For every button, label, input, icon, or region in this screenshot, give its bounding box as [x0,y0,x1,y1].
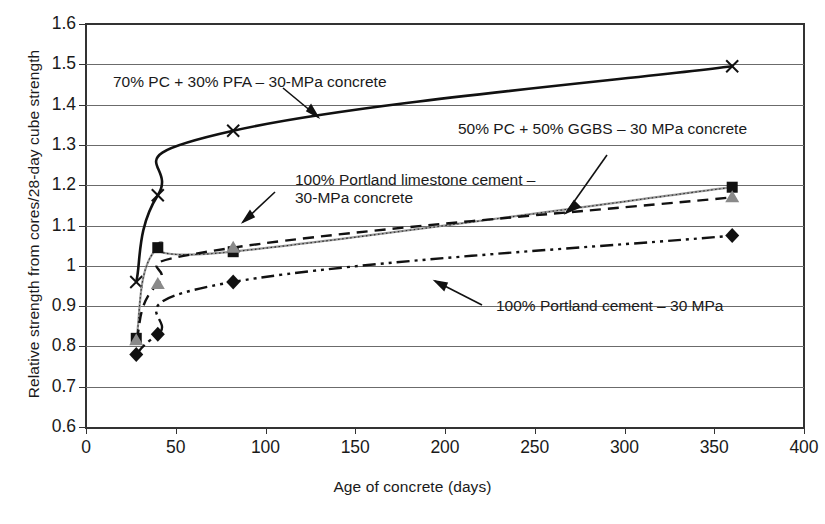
annotation-limestone: 100% Portland limestone cement – 30-MPa … [295,171,535,208]
y-tick-label: 1.1 [18,215,76,236]
x-tick-label: 150 [325,437,385,458]
gridline [86,64,804,65]
chart-figure: Relative strength from cores/28-day cube… [0,0,825,524]
axis-line-top [85,23,805,25]
x-tick-label: 0 [56,437,116,458]
y-tick-label: 0.9 [18,295,76,316]
x-tick-label: 50 [146,437,206,458]
y-tick [79,306,86,307]
annotation-limestone-line2: 30-MPa concrete [295,189,535,207]
gridline [86,145,804,146]
x-tick-label: 350 [684,437,744,458]
y-tick-label: 1.2 [18,174,76,195]
x-tick-label: 200 [415,437,475,458]
x-tick-label: 300 [595,437,655,458]
y-tick-label: 0.8 [18,335,76,356]
y-tick-label: 1.4 [18,94,76,115]
y-tick-label: 0.7 [18,376,76,397]
y-tick-label: 1.3 [18,134,76,155]
gridline [86,226,804,227]
x-tick [86,427,87,434]
gridline [86,346,804,347]
gridline [86,387,804,388]
x-tick-label: 400 [774,437,825,458]
x-tick [714,427,715,434]
annotation-portland: 100% Portland cement – 30 MPa [496,297,723,315]
gridline [86,105,804,106]
x-tick [804,427,805,434]
x-tick [535,427,536,434]
x-tick [355,427,356,434]
y-tick [79,105,86,106]
x-tick-label: 250 [505,437,565,458]
y-tick [79,346,86,347]
y-tick [79,387,86,388]
y-tick [79,64,86,65]
x-tick [176,427,177,434]
x-tick [266,427,267,434]
annotation-ggbs: 50% PC + 50% GGBS – 30 MPa concrete [458,120,747,138]
x-tick [625,427,626,434]
y-tick [79,427,86,428]
y-tick [79,24,86,25]
y-tick [79,226,86,227]
x-tick [445,427,446,434]
y-tick [79,185,86,186]
y-tick-label: 1.6 [18,13,76,34]
y-tick-label: 0.6 [18,416,76,437]
gridline [86,266,804,267]
x-tick-label: 100 [236,437,296,458]
y-tick-label: 1 [18,255,76,276]
annotation-limestone-line1: 100% Portland limestone cement – [295,171,535,189]
y-tick-label: 1.5 [18,53,76,74]
annotation-pfa: 70% PC + 30% PFA – 30-MPa concrete [113,73,387,91]
y-tick [79,145,86,146]
y-tick [79,266,86,267]
x-axis-title: Age of concrete (days) [0,478,825,496]
